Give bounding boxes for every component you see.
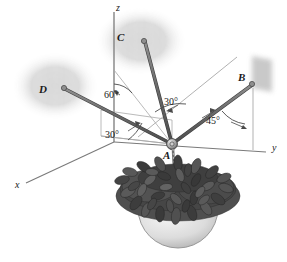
arc-45 [222,111,245,124]
angle-label-60: 60° [104,90,118,100]
axis-label-x: x [15,180,19,190]
axis-label-z: z [116,3,120,13]
angle-label-30-upper: 30° [164,97,178,107]
joint-A [167,139,178,150]
angle-label-30-lower: 30° [105,130,119,140]
anchor-D [61,85,66,90]
axis-label-y: y [272,143,276,153]
x-axis [26,142,114,183]
point-label-A: A [163,150,170,161]
angle-marks [114,84,247,140]
angle-label-45: 45° [206,116,220,126]
figure-canvas [0,0,287,262]
anchor-B [249,81,254,86]
statics-figure: z y x A B C D 60° 30° 30° 45° [0,0,287,262]
wall-B [252,56,272,92]
plant-foliage [114,155,240,225]
point-label-B: B [238,72,245,83]
y-axis [114,142,266,152]
cable-AB [172,81,255,144]
point-label-D: D [39,84,47,95]
wall-D [12,50,100,124]
point-label-C: C [117,32,124,43]
anchor-C [141,38,146,43]
